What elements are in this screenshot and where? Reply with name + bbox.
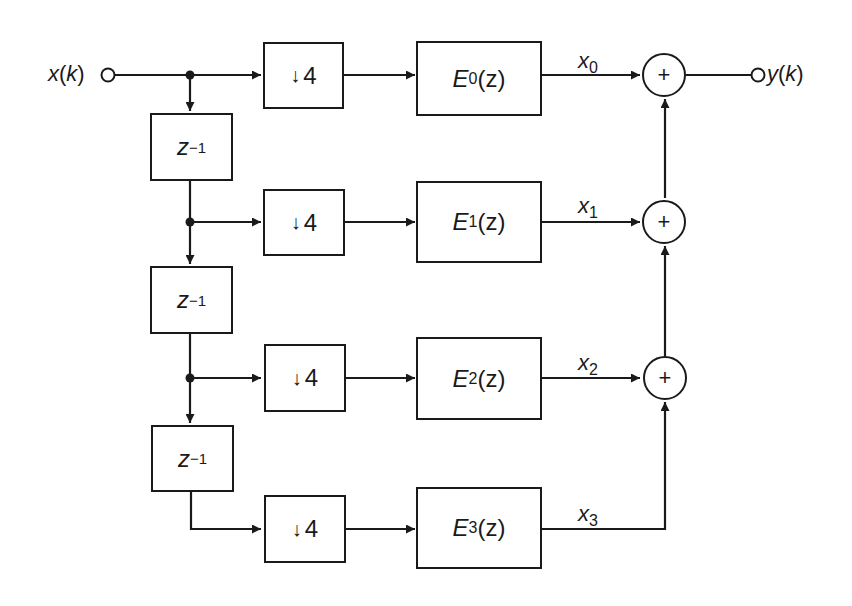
junction-dot-0	[186, 71, 195, 80]
adder-1: +	[642, 200, 686, 244]
output-label: y(k)	[767, 63, 804, 85]
signal-label-x0: x0	[578, 50, 598, 76]
delay-block-1: z−1	[150, 113, 233, 181]
adder-2: +	[643, 356, 687, 400]
delay-block-2: z−1	[150, 266, 233, 334]
downsampler-3: ↓4	[264, 495, 346, 563]
junction-dot-2	[186, 374, 195, 383]
adder-0: +	[642, 53, 686, 97]
downsampler-0: ↓4	[263, 42, 344, 109]
junction-dot-1	[186, 218, 195, 227]
input-terminal	[102, 69, 115, 82]
signal-label-x3: x3	[578, 503, 598, 529]
input-label: x(k)	[48, 63, 85, 85]
downsampler-1: ↓4	[263, 189, 345, 256]
downsampler-2: ↓4	[264, 344, 346, 412]
filter-e1: E1(z)	[416, 181, 542, 263]
filter-e3: E3(z)	[416, 487, 542, 569]
filter-e2: E2(z)	[416, 337, 542, 420]
wire-x3	[541, 402, 665, 529]
filter-e0: E0(z)	[416, 41, 542, 116]
signal-label-x1: x1	[578, 195, 598, 221]
signal-label-x2: x2	[578, 352, 598, 378]
delay-block-3: z−1	[151, 425, 234, 492]
wire-to-down3	[191, 491, 261, 529]
output-terminal	[752, 69, 765, 82]
